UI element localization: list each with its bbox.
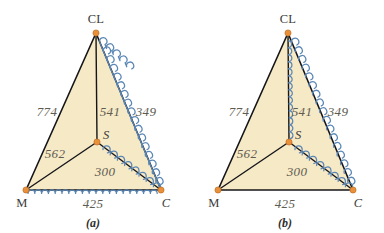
vertex-dot-cl-b [285, 30, 291, 36]
vertex-dot-cl-a [93, 30, 99, 36]
diagram-svg: CL M C S 774 541 349 562 300 425 (a) [0, 0, 384, 233]
edge-value-562-a: 562 [45, 146, 66, 161]
vertex-dot-c-b [350, 187, 356, 193]
edge-value-541-b: 541 [292, 104, 313, 119]
edge-value-349-b: 349 [327, 104, 349, 119]
panel-caption-b: (b) [278, 216, 292, 230]
edge-value-774-a: 774 [37, 104, 58, 119]
edge-value-425-a: 425 [83, 196, 104, 211]
edge-cl-s-b [288, 33, 289, 142]
figure-root: CL M C S 774 541 349 562 300 425 (a) [0, 0, 384, 233]
edge-value-300-a: 300 [94, 164, 116, 179]
vertex-dot-m-a [23, 187, 29, 193]
vertex-label-s-a: S [103, 128, 110, 142]
vertex-label-c-a: C [162, 196, 171, 210]
vertex-label-cl-a: CL [88, 12, 105, 26]
panel-b: CL M C S 774 541 349 562 300 425 (b) [208, 12, 363, 230]
vertex-dot-s-a [94, 139, 100, 145]
squiggle-m-c-a [28, 190, 157, 193]
edge-value-562-b: 562 [237, 146, 258, 161]
panel-a: CL M C S 774 541 349 562 300 425 (a) [16, 12, 171, 230]
edge-cl-s-a [96, 33, 97, 142]
vertex-label-s-b: S [295, 128, 302, 142]
vertex-label-m-b: M [208, 196, 219, 210]
edge-value-541-a: 541 [100, 104, 121, 119]
vertex-dot-c-a [158, 187, 164, 193]
vertex-label-m-a: M [16, 196, 27, 210]
vertex-label-cl-b: CL [280, 12, 297, 26]
edge-value-349-a: 349 [135, 104, 157, 119]
vertex-dot-s-b [286, 139, 292, 145]
panel-caption-a: (a) [86, 216, 100, 230]
vertex-label-c-b: C [354, 196, 363, 210]
edge-value-425-b: 425 [275, 196, 296, 211]
edge-value-774-b: 774 [229, 104, 250, 119]
vertex-dot-m-b [215, 187, 221, 193]
edge-value-300-b: 300 [286, 164, 308, 179]
